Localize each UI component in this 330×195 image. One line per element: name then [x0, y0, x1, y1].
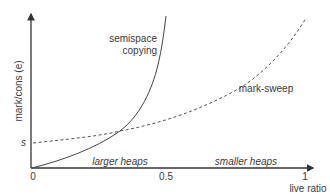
y-tick-s: s [21, 137, 26, 148]
x-tick-0.5: 0.5 [159, 171, 173, 182]
smaller-heaps-label: smaller heaps [215, 156, 277, 167]
mark-sweep-curve [33, 18, 306, 143]
semispace-label-line2: copying [123, 45, 157, 56]
chart: mark/cons (e) 0 0.5 1 s live ratio semis… [0, 0, 330, 195]
y-axis-label: mark/cons (e) [13, 60, 24, 121]
larger-heaps-label: larger heaps [92, 156, 148, 167]
mark-sweep-label: mark-sweep [239, 83, 294, 94]
x-axis-label: live ratio [289, 183, 327, 194]
x-tick-0: 0 [30, 171, 36, 182]
semispace-label-line1: semispace [109, 33, 157, 44]
x-tick-1: 1 [302, 171, 308, 182]
